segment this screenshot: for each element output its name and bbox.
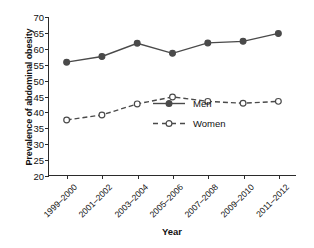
- x-axis-tick-mark: [279, 175, 280, 179]
- x-axis-tick-mark: [138, 175, 139, 179]
- x-axis-tick-label: 2009–2010: [218, 182, 255, 219]
- legend-swatch-women: [152, 118, 186, 129]
- x-axis-tick-mark: [102, 175, 103, 179]
- y-axis-tick-label: 30: [33, 139, 44, 150]
- y-axis-tick-mark: [45, 33, 49, 34]
- x-axis-tick-mark: [173, 175, 174, 179]
- y-axis-tick-mark: [45, 160, 49, 161]
- legend-label: Women: [193, 119, 226, 129]
- data-point-men-6: [275, 31, 281, 37]
- legend-marker: [166, 121, 172, 127]
- chart-legend: MenWomen: [152, 98, 226, 138]
- x-axis-tick-label: 2011–2012: [254, 182, 291, 219]
- x-axis-tick-mark: [208, 175, 209, 179]
- x-axis-tick-label: 2005–2006: [148, 182, 185, 219]
- y-axis-tick-label: 35: [33, 123, 44, 134]
- y-axis-tick-label: 50: [33, 75, 44, 86]
- y-axis-tick-label: 25: [33, 155, 44, 166]
- x-axis-tick-mark: [244, 175, 245, 179]
- data-point-men-3: [170, 50, 176, 56]
- y-axis-tick-mark: [45, 17, 49, 18]
- x-axis-tick-label: 2007–2008: [183, 182, 220, 219]
- x-axis-tick-mark: [67, 175, 68, 179]
- chart-figure: Prevalence of abdominal obesity 20253035…: [0, 0, 314, 248]
- data-point-women-1: [99, 112, 105, 118]
- x-axis-tick-label: 1999–2000: [41, 182, 78, 219]
- y-axis-tick-mark: [45, 81, 49, 82]
- legend-item-women: Women: [152, 118, 226, 129]
- y-axis-tick-label: 40: [33, 107, 44, 118]
- y-axis-tick-mark: [45, 176, 49, 177]
- y-axis-tick-mark: [45, 144, 49, 145]
- y-axis-tick-mark: [45, 128, 49, 129]
- legend-marker: [166, 101, 172, 107]
- data-point-women-0: [64, 117, 70, 123]
- y-axis-tick-mark: [45, 49, 49, 50]
- plot-area: 20253035404550556065701999–20002001–2002…: [48, 17, 296, 176]
- y-axis-tick-label: 70: [33, 12, 44, 23]
- data-point-women-2: [134, 101, 140, 107]
- series-line-men: [67, 33, 279, 62]
- y-axis-tick-label: 55: [33, 59, 44, 70]
- legend-swatch-men: [152, 98, 186, 109]
- data-point-women-6: [275, 98, 281, 104]
- data-point-men-5: [240, 38, 246, 44]
- x-axis-tick-label: 2003–2004: [112, 182, 149, 219]
- y-axis-tick-label: 20: [33, 171, 44, 182]
- data-point-women-5: [240, 100, 246, 106]
- y-axis-tick-label: 45: [33, 91, 44, 102]
- data-point-men-2: [134, 40, 140, 46]
- y-axis-tick-mark: [45, 65, 49, 66]
- series-svg: [49, 17, 296, 175]
- y-axis-tick-mark: [45, 97, 49, 98]
- legend-label: Men: [193, 99, 211, 109]
- data-point-men-4: [205, 40, 211, 46]
- data-point-men-0: [64, 59, 70, 65]
- legend-item-men: Men: [152, 98, 226, 109]
- y-axis-tick-label: 65: [33, 27, 44, 38]
- y-axis-tick-mark: [45, 112, 49, 113]
- data-point-men-1: [99, 54, 105, 60]
- x-axis-title: Year: [48, 226, 296, 237]
- y-axis-tick-label: 60: [33, 43, 44, 54]
- x-axis-tick-label: 2001–2002: [77, 182, 114, 219]
